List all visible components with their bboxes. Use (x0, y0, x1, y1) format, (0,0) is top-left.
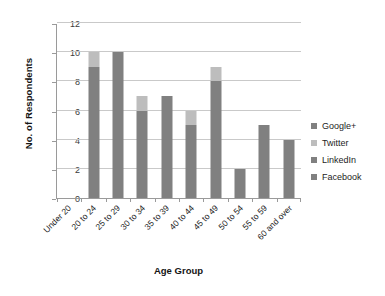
bar-segment[interactable] (210, 67, 221, 82)
x-label-slot: 30 to 34 (130, 203, 155, 261)
bar-slot (155, 24, 179, 198)
legend-item[interactable]: Twitter (311, 134, 362, 151)
legend-label: Facebook (322, 172, 362, 182)
x-axis-tick-mark (277, 198, 278, 202)
x-label-slot: Under 20 (56, 203, 81, 261)
bar-segment[interactable] (259, 125, 270, 198)
stacked-bar[interactable] (210, 67, 221, 198)
legend-item[interactable]: Google+ (311, 117, 362, 134)
stacked-bar[interactable] (283, 140, 294, 198)
bar-slot (130, 24, 154, 198)
x-axis-tick-mark (106, 198, 107, 202)
x-axis-tick-mark (81, 198, 82, 202)
bar-segment[interactable] (137, 111, 148, 199)
x-axis-tick-mark (228, 198, 229, 202)
bar-segment[interactable] (137, 96, 148, 111)
x-axis-category-label: Under 20 (42, 203, 74, 235)
legend-swatch-icon (311, 140, 317, 146)
x-label-slot: 60 and over (277, 203, 302, 261)
x-label-slot: 20 to 24 (81, 203, 106, 261)
bar-slot (203, 24, 227, 198)
stacked-bar[interactable] (186, 111, 197, 199)
y-axis-title: No. of Respondents (23, 24, 34, 184)
stacked-bar[interactable] (137, 96, 148, 198)
x-axis-tick-mark (252, 198, 253, 202)
bar-slot (277, 24, 301, 198)
x-label-slot: 45 to 49 (203, 203, 228, 261)
legend-label: Google+ (322, 121, 356, 131)
legend-swatch-icon (311, 157, 317, 163)
x-label-slot: 35 to 39 (154, 203, 179, 261)
x-axis-tick-mark (203, 198, 204, 202)
x-label-slot: 25 to 29 (105, 203, 130, 261)
bar-chart: No. of Respondents 024681012 Under 2020 … (0, 0, 385, 296)
bar-slot (252, 24, 276, 198)
bar-slot (228, 24, 252, 198)
x-axis-tick-mark (300, 198, 301, 202)
bar-slot (106, 24, 130, 198)
legend-swatch-icon (311, 123, 317, 129)
x-label-slot: 50 to 54 (228, 203, 253, 261)
bar-slot (57, 24, 81, 198)
x-axis-tick-mark (179, 198, 180, 202)
bar-slot (81, 24, 105, 198)
bar-series-group (57, 24, 301, 198)
bar-slot (179, 24, 203, 198)
stacked-bar[interactable] (113, 52, 124, 198)
x-axis-tick-labels: Under 2020 to 2425 to 2930 to 3435 to 39… (56, 203, 301, 261)
bar-segment[interactable] (235, 169, 246, 198)
x-axis-tick-mark (155, 198, 156, 202)
x-axis-tick-mark (130, 198, 131, 202)
x-axis-tick-mark (57, 198, 58, 202)
stacked-bar[interactable] (235, 169, 246, 198)
plot-area (56, 24, 301, 199)
bar-segment[interactable] (113, 52, 124, 198)
legend-label: LinkedIn (322, 155, 356, 165)
stacked-bar[interactable] (259, 125, 270, 198)
bar-segment[interactable] (283, 140, 294, 198)
bar-segment[interactable] (161, 96, 172, 198)
bar-segment[interactable] (88, 67, 99, 198)
legend-item[interactable]: Facebook (311, 168, 362, 185)
x-label-slot: 40 to 44 (179, 203, 204, 261)
bar-segment[interactable] (210, 81, 221, 198)
y-axis-tick-mark (52, 199, 56, 200)
gridline (57, 22, 301, 23)
legend-label: Twitter (322, 138, 349, 148)
legend: Google+TwitterLinkedInFacebook (311, 117, 362, 185)
bar-segment[interactable] (186, 111, 197, 126)
bar-segment[interactable] (186, 125, 197, 198)
legend-swatch-icon (311, 174, 317, 180)
stacked-bar[interactable] (88, 52, 99, 198)
legend-item[interactable]: LinkedIn (311, 151, 362, 168)
x-axis-title: Age Group (56, 265, 301, 276)
stacked-bar[interactable] (161, 96, 172, 198)
bar-segment[interactable] (88, 52, 99, 67)
